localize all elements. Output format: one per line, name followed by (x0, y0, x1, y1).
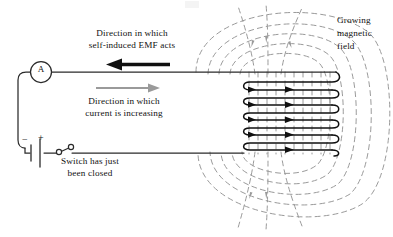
current-arrow-head (148, 83, 160, 92)
field-arrow-bot-a (249, 192, 252, 199)
magnetic-field-line2: magnetic (337, 27, 391, 40)
field-arrow-top-c (288, 41, 292, 48)
current-direction-line2: current is increasing (54, 108, 194, 120)
magnetic-field-line3: field (337, 40, 391, 53)
field-line-top-c (281, 8, 302, 74)
magnetic-field-line1: Growing (337, 14, 391, 27)
coil-arrow-4 (285, 131, 294, 138)
coil-arrow-6 (248, 87, 256, 93)
current-direction-label: Direction in which current is increasing (54, 96, 194, 119)
diagram-canvas: A Direction in which self-induced EMF ac… (0, 0, 393, 237)
field-line-bot-b (266, 152, 268, 230)
wire-battery-lead (25, 148, 30, 153)
battery-negative-label: − (22, 134, 28, 145)
field-arrow-top-b (265, 36, 268, 43)
field-arrow-top-a (251, 40, 254, 47)
coil-arrow-2 (285, 101, 294, 108)
switch-label-line2: been closed (38, 168, 142, 180)
field-line-bot-c (281, 152, 302, 226)
scan-artifact (185, 1, 199, 8)
current-direction-arrow (96, 83, 160, 92)
coil-turn-end (332, 150, 339, 156)
coil-arrow-3 (285, 116, 294, 123)
switch-label-line1: Switch has just (38, 156, 142, 168)
coil-arrow-9 (248, 132, 256, 138)
emf-direction-label: Direction in which self-induced EMF acts (62, 28, 202, 51)
battery-positive-label: + (38, 132, 44, 143)
emf-arrow-head (106, 59, 122, 71)
field-line-bot-a (238, 152, 255, 228)
switch-terminal-left (56, 149, 61, 154)
emf-direction-arrow (106, 59, 170, 71)
magnetic-field-label: Growing magnetic field (337, 14, 391, 53)
emf-direction-line1: Direction in which (62, 28, 202, 40)
coil-arrow-8 (248, 117, 256, 123)
coil-arrow-1 (285, 86, 294, 93)
coil-arrow-7 (248, 102, 256, 108)
coil-arrow-5 (285, 146, 294, 153)
emf-direction-line2: self-induced EMF acts (62, 40, 202, 52)
switch-terminal-right (68, 144, 73, 149)
current-direction-line1: Direction in which (54, 96, 194, 108)
ammeter-label: A (32, 64, 50, 74)
switch-label: Switch has just been closed (38, 156, 142, 179)
